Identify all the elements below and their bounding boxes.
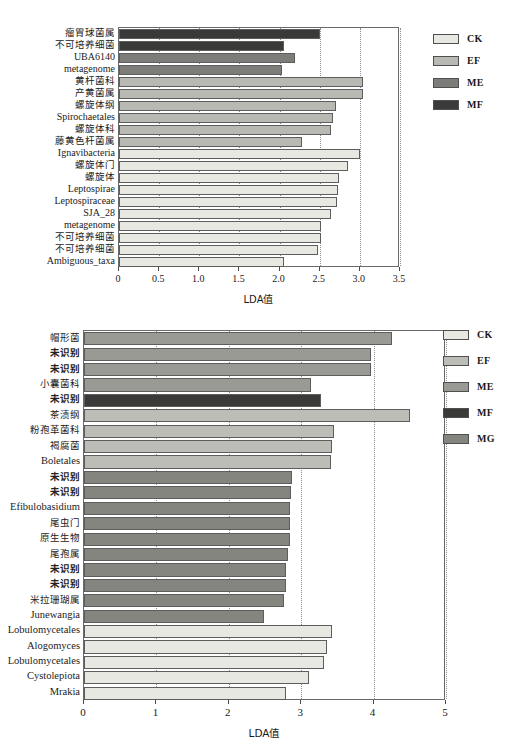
bar-row <box>84 471 444 484</box>
y-axis-label: 褐腐菌 <box>50 441 80 451</box>
legend-bacteria: CKEFMEMF <box>433 32 529 120</box>
bar <box>119 41 284 51</box>
bar-row <box>84 348 444 361</box>
bar-row <box>119 53 398 63</box>
x-axis-tick-mark <box>228 700 229 704</box>
y-axis-label: SJA_28 <box>83 208 115 218</box>
y-axis-label: 茶渍纲 <box>50 410 80 420</box>
bars-bacteria <box>119 28 398 266</box>
x-axis-tick-label: 1 <box>135 706 175 718</box>
legend-swatch-icon <box>443 434 469 444</box>
y-axis-label: Spirochaetales <box>57 112 115 122</box>
bar-row <box>119 197 398 207</box>
bar-row <box>84 425 444 438</box>
bar <box>84 625 332 638</box>
bar <box>119 161 348 171</box>
legend-label: MF <box>477 406 493 419</box>
bar <box>84 363 371 376</box>
y-axis-label: 未识别 <box>50 487 80 497</box>
x-axis-tick-mark <box>83 700 84 704</box>
bar <box>119 101 336 111</box>
x-axis-tick-mark <box>445 700 446 704</box>
y-axis-label: 产黄菌属 <box>75 88 115 98</box>
legend-swatch-icon <box>443 356 469 366</box>
bar <box>119 113 333 123</box>
bar-row <box>84 687 444 700</box>
legend-label: ME <box>477 380 494 393</box>
y-axis-label: 藤黄色杆菌属 <box>55 136 115 146</box>
x-axis-tick-label: 0.5 <box>138 273 178 284</box>
bar <box>84 455 331 468</box>
bar <box>119 89 363 99</box>
y-axis-label: 不可培养细菌 <box>55 244 115 254</box>
legend-swatch-icon <box>433 100 459 110</box>
y-axis-label: 黄杆菌科 <box>75 76 115 86</box>
legend-swatch-icon <box>443 382 469 392</box>
bar-row <box>119 125 398 135</box>
y-axis-label: 未识别 <box>50 394 80 404</box>
y-axis-label: 粉孢革菌科 <box>30 425 80 435</box>
y-axis-label: 螺旋体科 <box>75 124 115 134</box>
bar <box>119 233 321 243</box>
y-axis-label: Mrakia <box>50 687 80 698</box>
y-axis-label: 尾孢属 <box>50 549 80 559</box>
legend-label: CK <box>467 32 483 45</box>
bar-row <box>119 209 398 219</box>
bar-row <box>84 332 444 345</box>
bar <box>119 65 282 75</box>
bar-row <box>119 233 398 243</box>
legend-label: MF <box>467 98 483 111</box>
x-axis-title-fungi: LDA值 <box>83 725 445 740</box>
bar <box>119 53 295 63</box>
x-axis-tick-mark <box>319 267 320 271</box>
y-axis-label: 未识别 <box>50 564 80 574</box>
x-axis-tick-label: 0 <box>98 273 138 284</box>
legend-swatch-icon <box>443 408 469 418</box>
y-axis-label: 帽形菌 <box>50 333 80 343</box>
bar-row <box>84 579 444 592</box>
y-axis-label: 螺旋体 <box>85 172 115 182</box>
bar-row <box>119 65 398 75</box>
y-axis-label: Efibulobasidium <box>10 502 80 513</box>
bar-row <box>84 671 444 684</box>
bar <box>119 137 302 147</box>
bar-row <box>119 245 398 255</box>
gridline <box>400 28 401 266</box>
legend-label: EF <box>477 354 490 367</box>
legend-swatch-icon <box>443 330 469 340</box>
x-axis-tick-label: 3.0 <box>339 273 379 284</box>
bar <box>84 394 321 407</box>
bar <box>84 348 371 361</box>
bar <box>119 125 331 135</box>
bar-row <box>84 486 444 499</box>
y-axis-label: 未识别 <box>50 364 80 374</box>
bar <box>119 209 331 219</box>
bar <box>84 517 290 530</box>
x-axis-tick-label: 1.5 <box>218 273 258 284</box>
bar-row <box>84 440 444 453</box>
plot-area-fungi <box>83 330 445 700</box>
x-axis-tick-label: 2.5 <box>299 273 339 284</box>
bar-row <box>119 257 398 267</box>
bar-row <box>84 378 444 391</box>
y-axis-label: 原生生物 <box>40 533 80 543</box>
y-axis-label: 小囊菌科 <box>40 379 80 389</box>
y-axis-label: Lobulomycetales <box>8 656 80 667</box>
bar-row <box>84 502 444 515</box>
bar <box>84 640 327 653</box>
y-axis-label: 未识别 <box>50 348 80 358</box>
y-axis-label: 不可培养细菌 <box>55 40 115 50</box>
x-axis-title-bacteria: LDA值 <box>118 291 399 306</box>
x-axis-tick-mark <box>399 267 400 271</box>
bar <box>84 486 291 499</box>
bar <box>84 471 292 484</box>
bar <box>84 563 286 576</box>
y-axis-label: Junewangia <box>30 610 80 621</box>
bar-row <box>119 101 398 111</box>
bar-row <box>84 455 444 468</box>
chart-lda-bacteria: 瘤胃球菌属不可培养细菌UBA6140metagenome黄杆菌科产黄菌属螺旋体纲… <box>0 0 529 320</box>
x-axis-tick-label: 3.5 <box>379 273 419 284</box>
bar-row <box>84 625 444 638</box>
y-axis-label: metagenome <box>64 64 115 74</box>
bar-row <box>119 77 398 87</box>
